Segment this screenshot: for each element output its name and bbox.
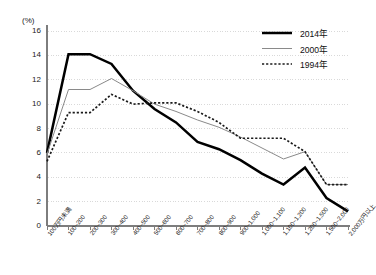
series-line [47,94,348,184]
legend-label: 2000年 [300,43,328,55]
y-axis-tick-label: 8 [19,124,41,133]
y-axis-tick-label: 14 [19,50,41,59]
y-axis-tick-label: 6 [19,148,41,157]
series-line [47,54,348,211]
y-axis-tick-label: 4 [19,172,41,181]
y-axis-tick-label: 12 [19,75,41,84]
legend-label: 2014年 [300,27,328,39]
y-axis-tick-label: 0 [19,221,41,230]
y-axis-tick-label: 16 [19,26,41,35]
y-axis-tick-label: 2 [19,197,41,206]
legend-label: 1994年 [300,58,328,70]
y-axis-tick-label: 10 [19,99,41,108]
